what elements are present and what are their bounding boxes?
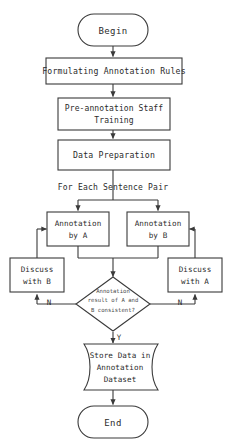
annotation-b-line1: Annotation xyxy=(135,219,182,228)
annotation-b-shape xyxy=(127,212,189,246)
annotation-a-line2: by A xyxy=(69,231,88,240)
node-begin: Begin xyxy=(78,14,148,46)
discuss-a-line1: Discuss xyxy=(179,265,212,274)
node-store-data: Store Data in Annotation Dataset xyxy=(84,344,158,390)
node-discuss-with-a: Discuss with A xyxy=(168,258,222,292)
discuss-a-line2: with A xyxy=(181,277,209,286)
annotation-a-line1: Annotation xyxy=(55,219,102,228)
node-discuss-with-b: Discuss with B xyxy=(10,258,64,292)
rules-label: Formulating Annotation Rules xyxy=(42,66,186,76)
edge-label-yes: Y xyxy=(117,333,122,342)
edge-label-no-right: N xyxy=(178,298,182,307)
end-label: End xyxy=(104,418,121,428)
decision-line1: Annotation xyxy=(96,288,130,294)
node-formulating-rules: Formulating Annotation Rules xyxy=(42,58,186,84)
node-end: End xyxy=(78,406,148,438)
decision-shape xyxy=(76,277,150,331)
dataprep-label: Data Preparation xyxy=(73,150,155,160)
discuss-b-shape xyxy=(10,258,64,292)
store-data-line1: Store Data in xyxy=(90,351,151,360)
discuss-a-shape xyxy=(168,258,222,292)
decision-line2: result of A and xyxy=(88,297,139,303)
node-data-preparation: Data Preparation xyxy=(58,140,170,170)
node-annotation-by-b: Annotation by B xyxy=(127,212,189,246)
store-data-line2: Annotation xyxy=(97,363,144,372)
begin-label: Begin xyxy=(98,26,127,36)
flowchart-canvas: Begin Formulating Annotation Rules Pre-a… xyxy=(0,0,226,447)
discuss-b-line2: with B xyxy=(23,277,51,286)
training-label-line2: Training xyxy=(94,116,133,125)
decision-line3: B consistent? xyxy=(91,307,135,313)
loop-header-label: For Each Sentence Pair xyxy=(58,183,168,192)
store-data-line3: Dataset xyxy=(104,375,137,384)
node-decision-consistency: Annotation result of A and B consistent? xyxy=(76,277,150,331)
flowchart-svg: Begin Formulating Annotation Rules Pre-a… xyxy=(0,0,226,447)
edge-label-no-left: N xyxy=(47,298,51,307)
node-annotation-by-a: Annotation by A xyxy=(47,212,109,246)
training-label-line1: Pre-annotation Staff xyxy=(65,104,163,113)
node-preannotation-training: Pre-annotation Staff Training xyxy=(58,98,170,130)
annotation-b-line2: by B xyxy=(149,231,168,240)
discuss-b-line1: Discuss xyxy=(21,265,54,274)
annotation-a-shape xyxy=(47,212,109,246)
training-shape xyxy=(58,98,170,130)
